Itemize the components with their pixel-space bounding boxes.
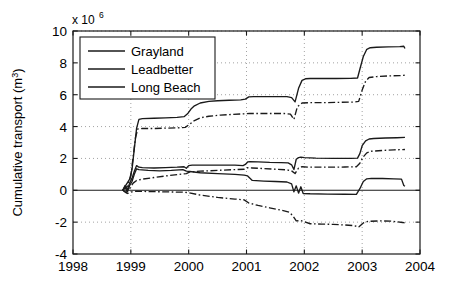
ytick-label: 8 <box>59 56 67 71</box>
xtick-label: 2004 <box>405 259 436 274</box>
legend-label-long-beach: Long Beach <box>131 80 200 95</box>
ytick-label: 10 <box>52 24 67 39</box>
y-axis-label: Cumulative transport (m3) <box>10 68 26 216</box>
chart-canvas: 1998199920002001200220032004-4-20246810x… <box>0 0 458 294</box>
xtick-label: 2001 <box>231 259 261 274</box>
xtick-label: 2002 <box>289 259 319 274</box>
y-axis-multiplier-exponent: 6 <box>99 10 104 20</box>
ytick-label: -4 <box>55 247 67 262</box>
xtick-label: 1999 <box>116 259 146 274</box>
ytick-label: 6 <box>59 88 67 103</box>
ytick-label: 2 <box>59 151 67 166</box>
svg-text:Cumulative transport (m3): Cumulative transport (m3) <box>10 68 26 216</box>
xtick-label: 2003 <box>347 259 377 274</box>
y-axis-multiplier-text: x 10 <box>72 13 95 27</box>
y-axis-multiplier: x 106 <box>72 10 104 27</box>
xtick-label: 2000 <box>174 259 204 274</box>
ytick-label: 0 <box>59 183 67 198</box>
ytick-label: 4 <box>59 120 67 135</box>
legend[interactable]: GraylandLeadbetterLong Beach <box>80 37 215 99</box>
legend-label-leadbetter: Leadbetter <box>131 62 194 77</box>
y-axis-label-tail: ) <box>10 68 25 72</box>
figure-container: 1998199920002001200220032004-4-20246810x… <box>0 0 458 294</box>
y-axis-label-main: Cumulative transport (m <box>10 78 25 217</box>
ytick-label: -2 <box>55 215 67 230</box>
legend-label-grayland: Grayland <box>131 44 184 59</box>
